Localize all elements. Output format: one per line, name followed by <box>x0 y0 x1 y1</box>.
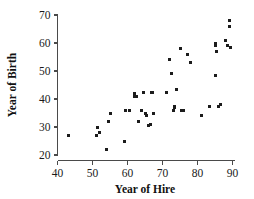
data-point <box>96 126 99 129</box>
data-point <box>215 50 218 53</box>
data-point <box>170 72 173 75</box>
data-point <box>168 58 171 61</box>
data-point <box>107 120 110 123</box>
x-tick-label-70: 70 <box>157 167 169 179</box>
data-point <box>105 148 108 151</box>
data-point <box>124 109 127 112</box>
data-point <box>151 91 154 94</box>
data-point <box>214 74 217 77</box>
data-point <box>208 105 211 108</box>
y-tick-label-60: 60 <box>39 37 51 49</box>
data-point <box>229 46 232 49</box>
data-point <box>152 112 155 115</box>
data-point <box>133 92 136 95</box>
data-point <box>182 109 185 112</box>
x-tick-label-80: 80 <box>192 167 204 179</box>
data-point <box>226 44 229 47</box>
data-point <box>128 109 131 112</box>
data-point <box>165 91 168 94</box>
data-point <box>214 44 217 47</box>
data-point <box>135 95 138 98</box>
data-point <box>228 19 231 22</box>
data-point <box>109 112 112 115</box>
data-point <box>200 114 203 117</box>
x-tick-label-40: 40 <box>52 167 64 179</box>
data-point <box>95 134 98 137</box>
y-tick-label-50: 50 <box>39 65 51 77</box>
data-point <box>67 134 70 137</box>
data-point <box>186 53 189 56</box>
y-tick-label-40: 40 <box>39 93 51 105</box>
data-point <box>123 140 126 143</box>
data-point <box>224 39 227 42</box>
chart-canvas: 203040506070405060708090Year of HireYear… <box>0 0 254 199</box>
data-point <box>172 109 175 112</box>
x-tick-label-90: 90 <box>227 167 239 179</box>
data-point <box>149 123 152 126</box>
data-point <box>145 114 148 117</box>
y-tick-label-20: 20 <box>39 149 51 161</box>
x-axis-title: Year of Hire <box>115 183 175 195</box>
y-tick-label-70: 70 <box>39 9 51 21</box>
data-point <box>98 131 101 134</box>
y-tick-label-30: 30 <box>39 121 51 133</box>
x-tick-label-50: 50 <box>87 167 99 179</box>
data-point <box>173 105 176 108</box>
data-point <box>144 112 147 115</box>
data-point <box>228 25 231 28</box>
data-point <box>179 47 182 50</box>
data-point <box>140 109 143 112</box>
data-point <box>214 42 217 45</box>
data-point <box>175 88 178 91</box>
y-axis-title: Year of Birth <box>6 52 18 117</box>
data-point <box>189 61 192 64</box>
data-point <box>219 103 222 106</box>
data-point <box>137 120 140 123</box>
scatter-plot-figure: 203040506070405060708090Year of HireYear… <box>0 0 254 199</box>
x-tick-label-60: 60 <box>122 167 134 179</box>
data-point <box>142 91 145 94</box>
